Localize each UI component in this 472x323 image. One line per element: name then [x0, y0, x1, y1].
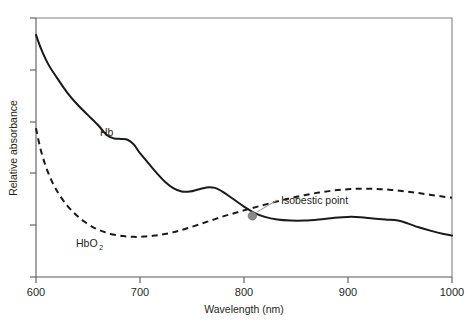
x-tick-label-1000: 1000 [440, 286, 464, 298]
x-tick-label-600: 600 [27, 286, 45, 298]
series-label-hbo2-sub: 2 [99, 243, 103, 252]
series-curve-hb [36, 35, 452, 236]
plot-frame-border [36, 18, 452, 277]
series-label-hb: Hb [100, 126, 114, 138]
x-tick-label-900: 900 [339, 286, 357, 298]
x-tick-label-700: 700 [131, 286, 149, 298]
isobestic-point-label: Isobestic point [281, 194, 348, 206]
isobestic-point-marker [248, 212, 256, 220]
series-label-hbo2-base: HbO [76, 237, 98, 249]
isobestic-leader-line [257, 200, 277, 212]
x-axis-ticks [36, 277, 452, 283]
x-axis-title: Wavelength (nm) [204, 303, 284, 315]
x-tick-label-800: 800 [235, 286, 253, 298]
y-axis-ticks [30, 18, 36, 277]
y-axis-title: Relative absorbance [7, 100, 19, 196]
series-label-hbo2: HbO 2 [76, 237, 103, 252]
spectrum-chart-svg: 600 700 800 900 1000 Wavelength (nm) Rel… [0, 0, 472, 323]
chart-figure: 600 700 800 900 1000 Wavelength (nm) Rel… [0, 0, 472, 323]
